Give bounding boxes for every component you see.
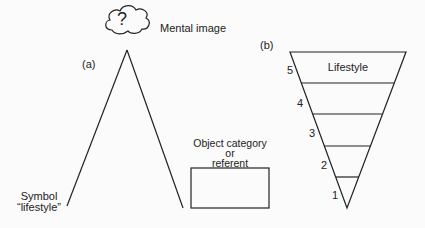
object-category-label: Object category or referent: [192, 138, 268, 168]
level-2-label: 2: [321, 160, 327, 171]
panel-a-label: (a): [82, 59, 95, 70]
level-5-label: 5: [287, 65, 293, 76]
level-4-label: 4: [297, 98, 303, 109]
mental-image-label: Mental image: [160, 23, 226, 34]
panel-b-label: (b): [260, 40, 273, 51]
triangle-a-right-side: [127, 50, 183, 208]
object-box: [191, 168, 269, 208]
symbol-label-line2: “lifestyle”: [14, 202, 64, 213]
symbol-label: Symbol “lifestyle”: [14, 191, 64, 213]
triangle-a-left-side: [67, 50, 127, 206]
object-label-line3: referent: [192, 158, 268, 168]
thought-cloud-icon: [106, 6, 149, 34]
inverted-triangle: [290, 52, 406, 208]
level-1-label: 1: [332, 190, 338, 201]
question-mark-icon: ?: [117, 10, 127, 28]
level-3-label: 3: [309, 128, 315, 139]
lifestyle-label: Lifestyle: [318, 62, 378, 73]
